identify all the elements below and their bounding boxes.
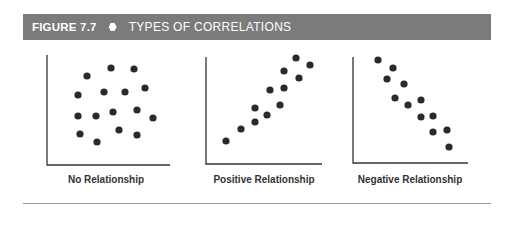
data-point [222, 137, 229, 144]
data-point [74, 91, 81, 98]
data-point [115, 126, 122, 133]
bottom-rule [23, 203, 491, 204]
data-point [109, 108, 116, 115]
data-point [417, 96, 424, 103]
data-point [266, 86, 273, 93]
data-point [237, 125, 244, 132]
data-point [417, 113, 424, 120]
data-point [133, 106, 140, 113]
data-point [383, 75, 390, 82]
data-point [389, 64, 396, 71]
data-point [445, 143, 452, 150]
axis-lines [206, 57, 322, 164]
scatter-negative-relationship [353, 56, 468, 163]
data-point [121, 88, 128, 95]
data-point [391, 94, 398, 101]
data-point [280, 84, 287, 91]
data-point [251, 104, 258, 111]
plot-label-negative-relationship: Negative Relationship [340, 174, 480, 185]
axis-lines [47, 55, 170, 165]
data-point [76, 130, 83, 137]
data-point [93, 138, 100, 145]
data-point [100, 88, 107, 95]
data-point [149, 114, 156, 121]
data-point [251, 118, 258, 125]
data-point [429, 128, 436, 135]
data-point [280, 67, 287, 74]
data-point [443, 126, 450, 133]
plot-label-positive-relationship: Positive Relationship [194, 174, 334, 185]
scatter-no-relationship [47, 55, 170, 165]
data-point [295, 74, 302, 81]
data-point [404, 101, 411, 108]
data-point [306, 61, 313, 68]
data-point [276, 101, 283, 108]
data-point [130, 65, 137, 72]
data-point [141, 84, 148, 91]
data-point [429, 112, 436, 119]
data-point [74, 112, 81, 119]
data-point [263, 111, 270, 118]
data-point [374, 56, 381, 63]
plot-label-no-relationship: No Relationship [36, 174, 176, 185]
data-point [400, 80, 407, 87]
data-point [292, 54, 299, 61]
data-point [107, 64, 114, 71]
data-point [133, 131, 140, 138]
scatter-positive-relationship [206, 54, 322, 164]
data-point [83, 72, 90, 79]
data-point [92, 112, 99, 119]
